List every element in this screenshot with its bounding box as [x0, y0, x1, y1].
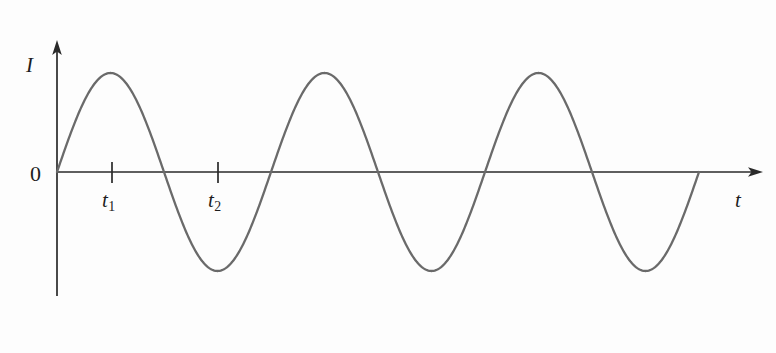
- x-axis-label: t: [735, 190, 741, 211]
- waveform-figure: I 0 t1 t2 t: [0, 0, 776, 353]
- tick-label-t2: t2: [208, 190, 221, 214]
- origin-label: 0: [30, 163, 41, 185]
- tick-label-t2-subscript: 2: [214, 199, 221, 214]
- tick-label-t1-subscript: 1: [108, 199, 115, 214]
- tick-label-t1-base: t: [102, 188, 108, 212]
- tick-label-t1: t1: [102, 190, 115, 214]
- waveform-svg: [0, 0, 776, 353]
- y-axis-label: I: [26, 55, 33, 76]
- tick-label-t2-base: t: [208, 188, 214, 212]
